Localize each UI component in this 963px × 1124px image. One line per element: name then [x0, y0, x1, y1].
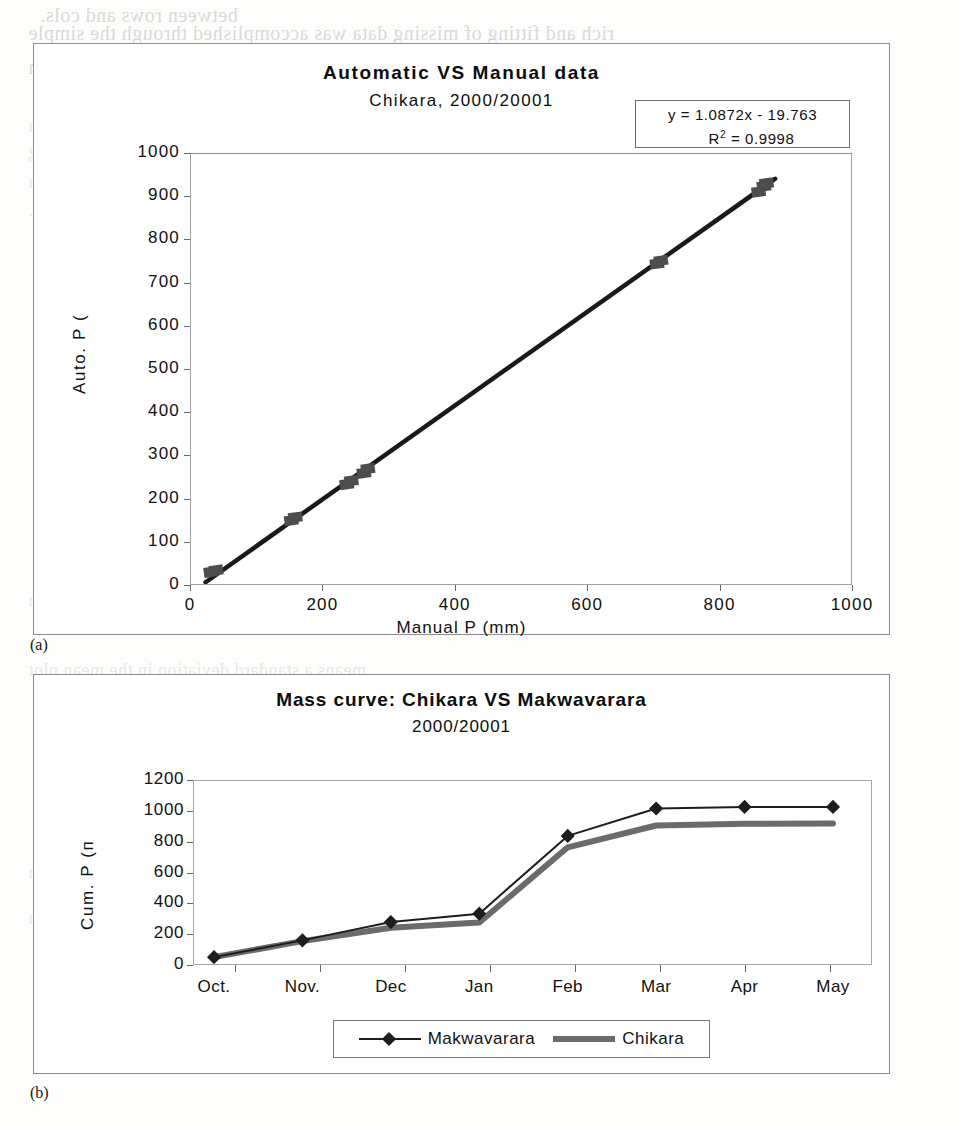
y-tick-label: 0 — [94, 574, 180, 594]
panel-label-a: (a) — [30, 636, 48, 654]
x-axis-tick — [720, 585, 721, 591]
x-tick-label: 1000 — [807, 595, 897, 615]
x-axis-tick — [190, 585, 191, 591]
chart-a-title: Automatic VS Manual data — [34, 62, 889, 84]
x-tick-label: Apr — [700, 977, 790, 997]
x-axis-tick — [830, 965, 831, 972]
x-tick-label: Jan — [434, 977, 524, 997]
x-axis-tick — [235, 965, 236, 972]
x-axis-tick — [660, 965, 661, 972]
y-tick-label: 400 — [94, 401, 180, 421]
x-axis-tick — [587, 585, 588, 591]
data-point — [759, 177, 774, 189]
series-line — [214, 823, 833, 957]
series-marker — [207, 950, 221, 964]
y-tick-label: 700 — [94, 272, 180, 292]
legend-entry-chikara[interactable]: Chikara — [553, 1029, 684, 1049]
chart-b-plot-area — [193, 780, 872, 965]
x-axis-tick — [745, 965, 746, 972]
x-axis-tick — [575, 965, 576, 972]
x-axis-tick — [455, 585, 456, 591]
x-tick-label: 0 — [145, 595, 235, 615]
x-axis-tick — [490, 965, 491, 972]
panel-label-b: (b) — [30, 1084, 49, 1102]
chart-a-x-axis-title: Manual P (mm) — [34, 618, 889, 638]
x-tick-label: Mar — [611, 977, 701, 997]
x-tick-label: 200 — [277, 595, 367, 615]
bleed-text-line: between rows and cols. — [40, 4, 238, 27]
bleed-text-line: rich and fitting of missing data was acc… — [28, 22, 614, 45]
x-tick-label: 800 — [675, 595, 765, 615]
data-point — [360, 463, 375, 475]
y-tick-label: 600 — [100, 862, 184, 882]
y-tick-label: 0 — [100, 954, 184, 974]
y-tick-label: 1000 — [100, 800, 184, 820]
trendline-equation: y = 1.0872x - 19.763 — [636, 105, 849, 125]
chart-b-subtitle: 2000/20001 — [34, 717, 889, 737]
chart-a-data-canvas — [191, 154, 851, 584]
series-marker — [649, 801, 663, 815]
legend-entry-makwavarara[interactable]: Makwavarara — [359, 1029, 536, 1049]
chart-a-plot-area — [190, 153, 852, 585]
chart-b-y-axis-title: Cum. P (п — [78, 840, 98, 930]
y-tick-label: 1200 — [100, 769, 184, 789]
series-marker — [295, 933, 309, 947]
y-tick-label: 800 — [100, 831, 184, 851]
x-tick-label: Dec — [346, 977, 436, 997]
y-tick-label: 1000 — [94, 142, 180, 162]
x-axis-tick — [320, 965, 321, 972]
chart-mass-curve[interactable]: Mass curve: Chikara VS Makwavarara 2000/… — [33, 674, 890, 1074]
legend-label-makwavarara: Makwavarara — [428, 1029, 536, 1049]
x-tick-label: Nov. — [257, 977, 347, 997]
data-point — [288, 511, 303, 523]
data-point — [653, 255, 668, 267]
x-axis-tick — [322, 585, 323, 591]
x-tick-label: 400 — [410, 595, 500, 615]
x-tick-label: May — [788, 977, 878, 997]
y-tick-label: 100 — [94, 531, 180, 551]
chart-b-data-canvas — [194, 781, 871, 964]
series-marker — [826, 800, 840, 814]
r-squared-number: = 0.9998 — [731, 130, 795, 147]
series-marker — [738, 800, 752, 814]
x-tick-label: 600 — [542, 595, 632, 615]
trendline-equation-box: y = 1.0872x - 19.763 R2 = 0.9998 — [635, 100, 850, 148]
data-point — [208, 564, 223, 576]
y-tick-label: 500 — [94, 358, 180, 378]
chart-b-title: Mass curve: Chikara VS Makwavarara — [34, 689, 889, 711]
y-tick-label: 900 — [94, 185, 180, 205]
x-tick-label: Oct. — [169, 977, 259, 997]
y-tick-label: 200 — [100, 923, 184, 943]
r-squared-value: R2 = 0.9998 — [636, 125, 849, 149]
y-tick-label: 300 — [94, 444, 180, 464]
chart-automatic-vs-manual[interactable]: Automatic VS Manual data Chikara, 2000/2… — [33, 43, 890, 635]
legend-swatch-thick-line-icon — [553, 1032, 615, 1046]
y-axis-tick — [187, 965, 193, 966]
y-tick-label: 400 — [100, 892, 184, 912]
legend-label-chikara: Chikara — [622, 1029, 684, 1049]
x-axis-tick — [405, 965, 406, 972]
chart-b-legend[interactable]: Makwavarara Chikara — [333, 1020, 710, 1058]
r-squared-exponent: 2 — [720, 129, 726, 140]
y-tick-label: 200 — [94, 488, 180, 508]
data-point — [344, 475, 359, 487]
r-squared-label: R — [709, 130, 720, 147]
x-axis-tick — [852, 585, 853, 591]
chart-a-y-axis-title: Auto. P ( — [70, 314, 90, 394]
y-tick-label: 600 — [94, 315, 180, 335]
legend-swatch-line-diamond-icon — [359, 1032, 421, 1046]
x-tick-label: Feb — [523, 977, 613, 997]
y-tick-label: 800 — [94, 228, 180, 248]
